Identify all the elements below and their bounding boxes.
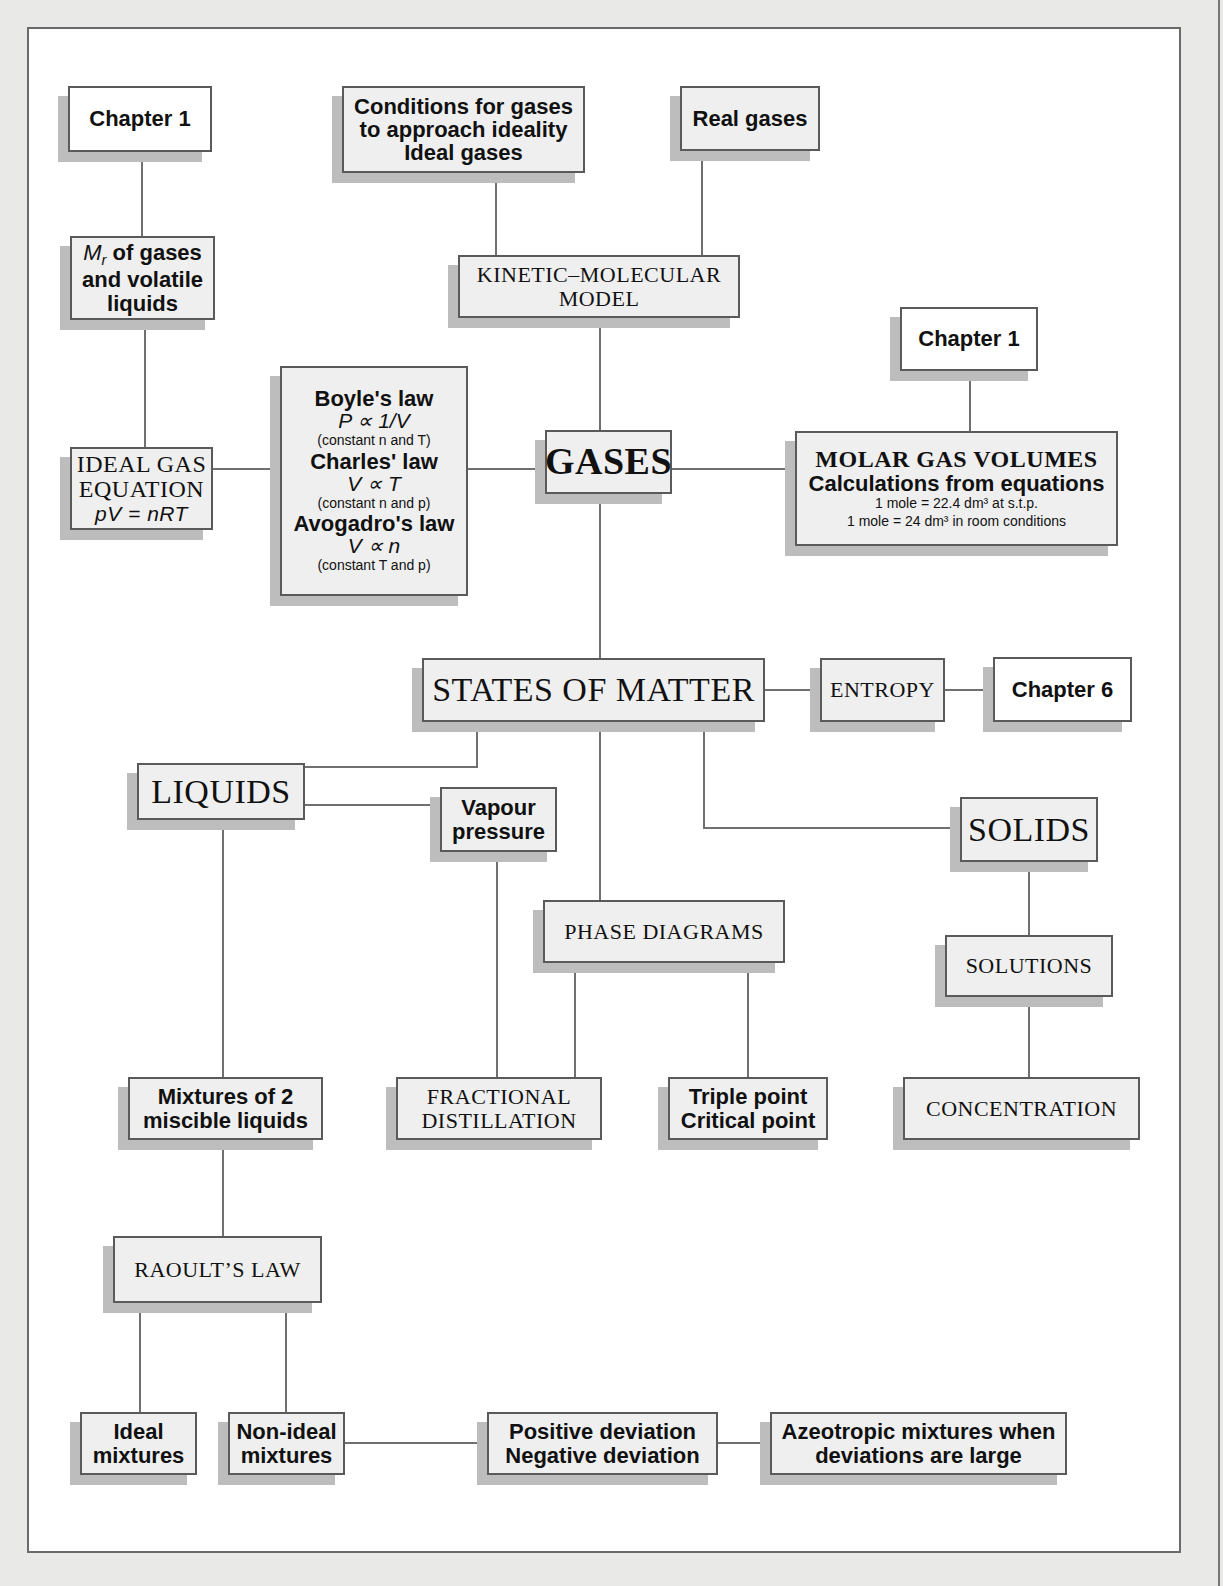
edge-states-solids-h (703, 827, 960, 829)
node-non-ideal-mixtures: Non-ideal mixtures (228, 1412, 345, 1475)
node-line: FRACTIONAL (427, 1085, 571, 1108)
edge-states-liquids-v (476, 722, 478, 767)
page-edge (1218, 0, 1220, 1586)
molar-note-stp: 1 mole = 22.4 dm³ at s.t.p. (875, 495, 1038, 513)
node-label: SOLUTIONS (966, 954, 1093, 977)
node-entropy: ENTROPY (820, 658, 945, 722)
node-ideal-gas-equation: IDEAL GAS EQUATION pV = nRT (70, 447, 213, 530)
node-line: Negative deviation (505, 1444, 699, 1467)
node-label: GASES (545, 442, 672, 482)
edge-gases-molar (672, 468, 795, 470)
node-vapour-pressure: Vapour pressure (440, 787, 557, 852)
node-raoults-law: RAOULT’S LAW (113, 1236, 322, 1303)
node-line: Mr of gases (83, 241, 202, 268)
node-label: RAOULT’S LAW (134, 1258, 301, 1281)
edge-states-phase (599, 722, 601, 900)
node-label: Chapter 1 (89, 107, 190, 130)
node-line: Ideal (113, 1420, 163, 1443)
edge-phase-fractional (574, 963, 576, 1077)
edge-conditions-kinetic (495, 173, 497, 255)
node-line: Ideal gases (404, 141, 523, 164)
edge-states-liquids-h (305, 766, 478, 768)
node-line: Non-ideal (236, 1420, 336, 1443)
edge-liquids-vapour (305, 804, 440, 806)
edge-kinetic-gases (599, 318, 601, 430)
edge-vapour-fractional (496, 852, 498, 1077)
node-chapter1-left: Chapter 1 (68, 86, 212, 152)
node-liquids: LIQUIDS (137, 763, 305, 820)
node-concentration: CONCENTRATION (903, 1077, 1140, 1140)
node-line: mixtures (93, 1444, 185, 1467)
node-gas-laws: Boyle's law P ∝ 1/V (constant n and T) C… (280, 366, 468, 596)
boyle-title: Boyle's law (315, 387, 434, 410)
node-conditions-ideality: Conditions for gases to approach idealit… (342, 86, 585, 173)
node-line: liquids (107, 292, 178, 315)
node-line: pressure (452, 820, 545, 843)
molar-title: MOLAR GAS VOLUMES (815, 447, 1097, 472)
edge-chapter1-mr (141, 152, 143, 236)
boyle-formula: P ∝ 1/V (338, 410, 409, 432)
node-label: Real gases (693, 107, 808, 130)
node-label: PHASE DIAGRAMS (564, 920, 764, 943)
edge-raoult-nonideal (285, 1303, 287, 1412)
node-label: ENTROPY (830, 678, 935, 701)
node-line: Azeotropic mixtures when (782, 1420, 1056, 1443)
node-solutions: SOLUTIONS (945, 935, 1113, 997)
node-ideal-mixtures: Ideal mixtures (80, 1412, 197, 1475)
edge-solutions-concentration (1028, 997, 1030, 1077)
node-label: Chapter 1 (918, 327, 1019, 350)
node-fractional-distillation: FRACTIONAL DISTILLATION (396, 1077, 602, 1140)
edge-mixtures-raoult (222, 1140, 224, 1236)
boyle-note: (constant n and T) (317, 432, 430, 450)
node-label: LIQUIDS (151, 774, 290, 810)
avogadro-title: Avogadro's law (294, 512, 455, 535)
node-mr-gases: Mr of gases and volatile liquids (70, 236, 215, 320)
node-chapter1-right: Chapter 1 (900, 307, 1038, 371)
node-gases: GASES (545, 430, 672, 494)
node-label: STATES OF MATTER (432, 672, 755, 708)
edge-chapter1r-molar (969, 371, 971, 431)
edge-states-solids-v (703, 722, 705, 828)
charles-formula: V ∝ T (347, 473, 401, 495)
node-line: mixtures (241, 1444, 333, 1467)
node-azeotropic: Azeotropic mixtures when deviations are … (770, 1412, 1067, 1475)
edge-realgases-kinetic (701, 151, 703, 255)
node-line: Mixtures of 2 (158, 1085, 294, 1108)
node-states-of-matter: STATES OF MATTER (422, 658, 765, 722)
edge-deviations-azeotropic (718, 1442, 770, 1444)
edge-phase-triple (747, 963, 749, 1077)
node-line: Positive deviation (509, 1420, 696, 1443)
node-mixtures: Mixtures of 2 miscible liquids (128, 1077, 323, 1140)
edge-states-entropy (765, 689, 820, 691)
charles-title: Charles' law (310, 450, 438, 473)
node-line: MODEL (559, 287, 640, 310)
node-line: Triple point (689, 1085, 808, 1108)
node-chapter6: Chapter 6 (993, 657, 1132, 722)
node-line: Critical point (681, 1109, 815, 1132)
node-molar-gas-volumes: MOLAR GAS VOLUMES Calculations from equa… (795, 431, 1118, 546)
node-line: Conditions for gases (354, 95, 573, 118)
edge-nonideal-deviations (345, 1442, 487, 1444)
node-label: Chapter 6 (1012, 678, 1113, 701)
node-line: and volatile (82, 268, 203, 291)
molar-subtitle: Calculations from equations (809, 472, 1105, 495)
edge-entropy-chapter6 (945, 689, 993, 691)
edge-solids-solutions (1028, 862, 1030, 935)
node-solids: SOLIDS (960, 797, 1098, 862)
edge-gaslaws-gases (468, 468, 545, 470)
node-line: miscible liquids (143, 1109, 308, 1132)
edge-mr-idealgas (144, 320, 146, 447)
node-real-gases: Real gases (680, 86, 820, 151)
node-formula: pV = nRT (95, 503, 188, 525)
edge-raoult-ideal (139, 1303, 141, 1412)
node-line: DISTILLATION (421, 1109, 576, 1132)
avogadro-note: (constant T and p) (317, 557, 430, 575)
charles-note: (constant n and p) (318, 495, 431, 513)
node-phase-diagrams: PHASE DIAGRAMS (543, 900, 785, 963)
edge-gases-states (599, 494, 601, 658)
node-deviations: Positive deviation Negative deviation (487, 1412, 718, 1475)
node-line: EQUATION (79, 477, 204, 502)
node-label: SOLIDS (968, 812, 1090, 848)
node-line: KINETIC–MOLECULAR (477, 263, 721, 286)
node-triple-critical: Triple point Critical point (668, 1077, 828, 1140)
